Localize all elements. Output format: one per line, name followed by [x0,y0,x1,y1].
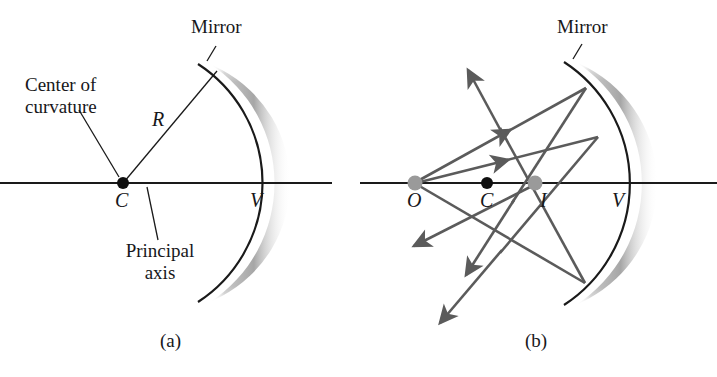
leader-center-of-curvature [79,110,119,177]
point-center-of-curvature-a [117,177,129,189]
radius-label: R [152,108,164,130]
mirror-label-a: Mirror [191,16,242,37]
point-center-of-curvature-b [481,177,493,189]
point-label-o-b: O [407,189,421,211]
point-label-c-a: C [115,189,128,211]
point-label-i-b: I [540,189,547,211]
optics-figure: Mirror Center of curvature R C V Princip… [0,0,717,377]
center-of-curvature-label-line1: Center of [25,74,96,95]
ray-1-incident-arrow [416,130,510,182]
ray-2-reflected-arrow [440,250,502,323]
mirror-shading-b [552,48,664,320]
point-label-v-b: V [612,189,624,211]
mirror-label-b: Mirror [557,16,608,37]
center-of-curvature-label-line2: curvature [25,96,97,117]
point-label-v-a: V [250,189,262,211]
panel-caption-b: (b) [525,330,547,351]
ray-2-incident-arrow [416,160,508,183]
diagram-canvas [0,0,717,377]
panel-b-graphics [360,44,717,323]
ray-3-reflected-arrow [468,70,501,131]
panel-caption-a: (a) [160,330,181,351]
principal-axis-label-line1: Principal [105,240,215,261]
principal-axis-label-line2: axis [105,262,215,283]
point-label-c-b: C [480,189,493,211]
leader-principal-axis [147,187,158,240]
